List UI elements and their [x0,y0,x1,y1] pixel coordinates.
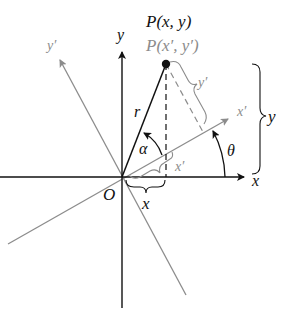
x-brace [126,180,165,193]
theta-arc [213,131,225,177]
label-x-prime-axis: x′ [236,104,247,119]
label-y-axis: y [115,26,125,44]
y-brace [252,64,266,174]
point-p [162,60,170,68]
label-x-axis: x [251,172,259,189]
label-theta: θ [227,142,235,159]
radius-line [122,64,166,177]
label-y-brace: y [266,107,276,126]
label-point-p: P(x, y) [145,12,192,31]
y-prime-brace [170,62,206,124]
label-y-prime-brace: y′ [196,75,208,90]
label-y-prime-axis: y′ [45,38,57,53]
label-alpha: α [139,140,148,157]
rotation-diagram: P(x, y) P(x′, y′) y y′ x′ x r α θ O x y … [0,0,282,315]
label-point-p-prime: P(x′, y′) [145,36,199,55]
label-origin: O [103,185,115,204]
label-x-brace: x [141,194,150,213]
label-x-prime-brace: x′ [174,159,185,174]
x-prime-axis [8,119,228,244]
label-radius: r [134,103,141,120]
